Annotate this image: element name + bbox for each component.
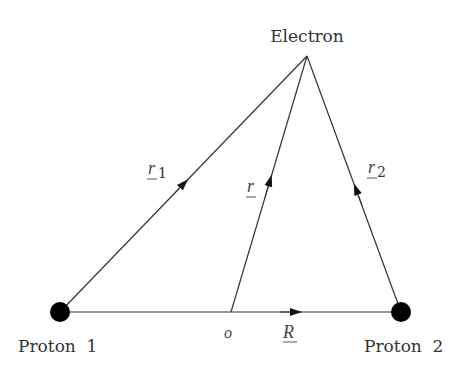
- proton-2-dot: [391, 302, 411, 322]
- proton-1-label: Proton 1: [18, 336, 97, 356]
- r1-symbol: r: [148, 158, 156, 178]
- r2-symbol: r: [368, 157, 376, 177]
- R-label: R: [282, 322, 297, 342]
- vector-r: [231, 56, 307, 312]
- r-symbol: r: [247, 176, 255, 196]
- vector-r2: [307, 56, 401, 312]
- proton-2-label: Proton 2: [364, 336, 443, 356]
- r2-label: r 2: [367, 157, 386, 180]
- r2-subscript: 2: [377, 164, 386, 180]
- electron-label: Electron: [270, 26, 344, 46]
- vector-r1: [60, 56, 307, 312]
- proton-1-dot: [50, 302, 70, 322]
- diagram-canvas: Electron Proton 1 Proton 2 o r 1 r r 2 R: [0, 0, 469, 372]
- r1-label: r 1: [147, 158, 167, 181]
- origin-label: o: [224, 324, 232, 341]
- r-label: r: [246, 176, 256, 197]
- r1-subscript: 1: [158, 165, 167, 181]
- R-symbol: R: [282, 322, 294, 342]
